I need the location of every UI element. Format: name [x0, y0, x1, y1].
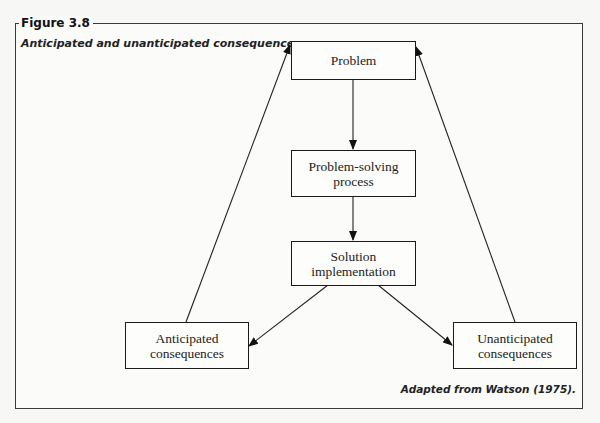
node-label: Problem-solving	[309, 159, 399, 174]
node-label: Unanticipated	[477, 331, 553, 346]
node-label: Solution	[311, 249, 396, 264]
node-anticipated-consequences: Anticipated consequences	[125, 322, 249, 369]
arrow-anticipated-to-problem	[186, 45, 290, 322]
node-label: Problem	[331, 53, 377, 68]
node-label: consequences	[477, 346, 553, 361]
arrow-unanticipated-to-problem	[416, 47, 515, 322]
node-problem: Problem	[291, 41, 416, 80]
node-label: implementation	[311, 264, 396, 279]
node-unanticipated-consequences: Unanticipated consequences	[453, 322, 577, 369]
node-label: consequences	[150, 346, 224, 361]
arrow-implementation-to-unanticipated	[378, 285, 452, 345]
node-label: process	[309, 174, 399, 189]
node-solution-implementation: Solution implementation	[291, 241, 416, 286]
arrow-implementation-to-anticipated	[249, 285, 328, 346]
node-problem-solving-process: Problem-solving process	[291, 150, 416, 197]
node-label: Anticipated	[150, 331, 224, 346]
